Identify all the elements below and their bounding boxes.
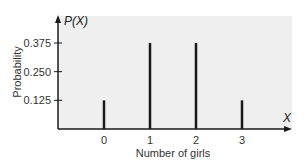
x-tick-label: 1	[147, 134, 153, 146]
y-ticks: 0.1250.2500.375	[23, 37, 62, 106]
x-tick-label: 0	[101, 134, 107, 146]
y-tick-label: 0.125	[23, 94, 51, 106]
x-tick-label: 2	[193, 134, 199, 146]
x-axis-symbol: X	[282, 111, 292, 125]
x-tick-label: 3	[239, 134, 245, 146]
x-axis-title: Number of girls	[136, 147, 211, 159]
y-tick-label: 0.375	[23, 37, 51, 49]
y-axis-title: Probability	[11, 46, 23, 98]
probability-distribution-chart: 0.1250.2500.375 0123 P(X) X Number of gi…	[0, 0, 307, 168]
x-tick-labels: 0123	[101, 134, 245, 146]
y-axis-symbol: P(X)	[64, 14, 88, 28]
y-tick-label: 0.250	[23, 66, 51, 78]
plot-background	[58, 16, 292, 129]
